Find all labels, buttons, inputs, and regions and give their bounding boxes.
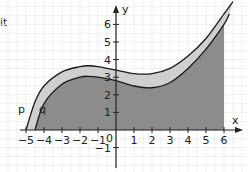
svg-text:3: 3 — [167, 134, 174, 147]
svg-text:p: p — [18, 103, 25, 116]
svg-text:6: 6 — [104, 18, 111, 31]
svg-text:5: 5 — [104, 36, 111, 49]
svg-text:q: q — [39, 103, 46, 116]
svg-text:5: 5 — [203, 134, 210, 147]
function-graph: −5−4−3−2−1123456−11234560xypq — [0, 0, 248, 172]
svg-text:1: 1 — [104, 106, 111, 119]
svg-text:y: y — [122, 3, 129, 16]
svg-text:−2: −2 — [72, 134, 88, 147]
svg-text:4: 4 — [104, 54, 111, 67]
svg-text:−4: −4 — [36, 134, 52, 147]
svg-text:x: x — [232, 114, 239, 127]
svg-text:3: 3 — [104, 71, 111, 84]
svg-text:−3: −3 — [54, 134, 70, 147]
svg-text:1: 1 — [131, 134, 138, 147]
svg-text:2: 2 — [149, 134, 156, 147]
svg-text:2: 2 — [104, 89, 111, 102]
svg-text:−5: −5 — [18, 134, 34, 147]
svg-text:6: 6 — [221, 134, 228, 147]
svg-text:0: 0 — [106, 132, 113, 145]
svg-text:4: 4 — [185, 134, 192, 147]
